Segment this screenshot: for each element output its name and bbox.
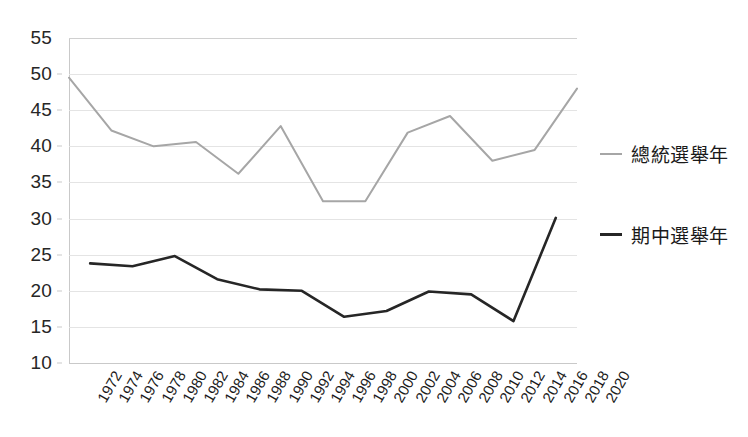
legend-item-2[interactable]: 期中選舉年 xyxy=(600,221,748,248)
x-axis: 1972197419761978198019821984198619881990… xyxy=(69,366,577,436)
line-chart: 10152025303540455055 1972197419761978198… xyxy=(0,0,748,437)
y-tick-label-50: 50 xyxy=(30,63,52,85)
y-tick-30 xyxy=(57,218,62,219)
series-container xyxy=(69,38,577,363)
gridline-10 xyxy=(69,363,577,364)
y-tick-10 xyxy=(57,363,62,364)
y-tick-label-15: 15 xyxy=(30,316,52,338)
y-tick-label-55: 55 xyxy=(30,27,52,49)
y-tick-35 xyxy=(57,182,62,183)
y-tick-label-30: 30 xyxy=(30,208,52,230)
chart-legend: 總統選舉年期中選舉年 xyxy=(600,140,748,302)
legend-line-icon xyxy=(600,233,622,236)
y-tick-15 xyxy=(57,326,62,327)
y-tick-25 xyxy=(57,254,62,255)
legend-label: 期中選舉年 xyxy=(631,221,729,248)
legend-line-icon xyxy=(600,153,622,155)
y-tick-label-45: 45 xyxy=(30,99,52,121)
y-tick-50 xyxy=(57,74,62,75)
y-tick-45 xyxy=(57,110,62,111)
y-tick-label-10: 10 xyxy=(30,352,52,374)
y-tick-label-20: 20 xyxy=(30,280,52,302)
y-tick-label-35: 35 xyxy=(30,171,52,193)
legend-item-1[interactable]: 總統選舉年 xyxy=(600,140,748,167)
series-line-1 xyxy=(69,78,577,202)
legend-label: 總統選舉年 xyxy=(631,140,729,167)
y-tick-label-25: 25 xyxy=(30,244,52,266)
series-line-2 xyxy=(90,218,556,321)
y-tick-label-40: 40 xyxy=(30,135,52,157)
y-axis: 10152025303540455055 xyxy=(0,38,62,363)
y-tick-40 xyxy=(57,146,62,147)
y-tick-20 xyxy=(57,290,62,291)
plot-area xyxy=(69,38,577,363)
